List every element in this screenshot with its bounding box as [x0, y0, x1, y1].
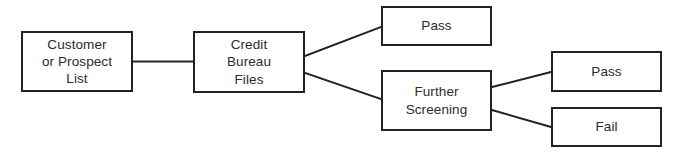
node-pass-right[interactable]: Pass [551, 51, 662, 92]
node-label: Pass [587, 63, 625, 80]
node-further-screening[interactable]: Further Screening [381, 70, 492, 131]
node-pass-top[interactable]: Pass [381, 6, 492, 46]
connector-bureau-to-pass-top [305, 27, 381, 56]
connector-bureau-to-further [305, 73, 381, 99]
node-fail[interactable]: Fail [551, 107, 662, 147]
node-label: Further Screening [402, 83, 472, 118]
connector-further-to-pass-right [492, 72, 551, 87]
node-customer-prospect-list[interactable]: Customer or Prospect List [21, 31, 133, 92]
node-credit-bureau-files[interactable]: Credit Bureau Files [193, 31, 305, 93]
node-label: Customer or Prospect List [38, 36, 116, 88]
node-label: Pass [417, 17, 455, 34]
connector-further-to-fail [492, 110, 551, 127]
node-label: Credit Bureau Files [223, 36, 275, 88]
node-label: Fail [591, 118, 621, 135]
flowchart-diagram: Customer or Prospect List Credit Bureau … [0, 0, 683, 155]
